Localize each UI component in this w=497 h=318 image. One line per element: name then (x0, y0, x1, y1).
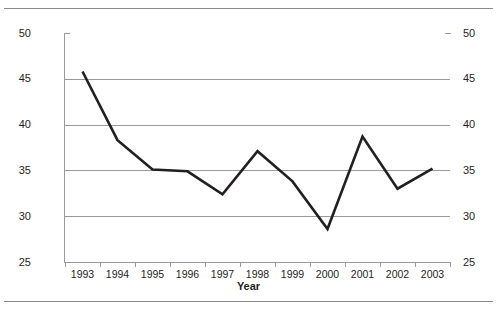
x-tick (135, 262, 136, 267)
figure-bottom-rule (4, 301, 493, 302)
x-tick-label-2002: 2002 (386, 269, 409, 280)
y-tick-label-left-40: 40 (19, 119, 31, 130)
x-tick (415, 262, 416, 267)
x-tick-label-1999: 1999 (281, 269, 304, 280)
figure-top-rule (4, 8, 493, 9)
x-tick-label-2000: 2000 (316, 269, 339, 280)
y-tick-label-right-50: 50 (463, 28, 475, 39)
y-tick-label-right-40: 40 (463, 119, 475, 130)
x-tick (275, 262, 276, 267)
plot-area (65, 33, 450, 262)
x-tick-label-1993: 1993 (71, 269, 94, 280)
x-tick (170, 262, 171, 267)
chart-figure: 253035404550 253035404550 19931994199519… (0, 0, 497, 318)
x-tick (100, 262, 101, 267)
x-tick (380, 262, 381, 267)
x-tick (205, 262, 206, 267)
x-tick (310, 262, 311, 267)
y-tick-label-right-45: 45 (463, 73, 475, 84)
y-tick-label-left-50: 50 (19, 28, 31, 39)
x-tick-label-1998: 1998 (246, 269, 269, 280)
y-tick-label-left-25: 25 (19, 257, 31, 268)
x-tick (450, 262, 451, 267)
y-tick-label-right-25: 25 (463, 257, 475, 268)
x-tick-label-1995: 1995 (141, 269, 164, 280)
x-tick (240, 262, 241, 267)
x-tick-label-1994: 1994 (106, 269, 129, 280)
x-tick-label-1997: 1997 (211, 269, 234, 280)
y-tick-label-left-45: 45 (19, 73, 31, 84)
series-payout-rate (65, 33, 450, 262)
y-tick-label-left-30: 30 (19, 211, 31, 222)
x-axis-line (64, 262, 450, 263)
x-tick-label-1996: 1996 (176, 269, 199, 280)
x-tick (345, 262, 346, 267)
x-tick-label-2003: 2003 (421, 269, 444, 280)
y-tick-label-right-30: 30 (463, 211, 475, 222)
x-tick-label-2001: 2001 (351, 269, 374, 280)
y-tick-label-right-35: 35 (463, 165, 475, 176)
x-tick (65, 262, 66, 267)
y-tick-label-left-35: 35 (19, 165, 31, 176)
x-axis-title: Year (0, 280, 497, 292)
